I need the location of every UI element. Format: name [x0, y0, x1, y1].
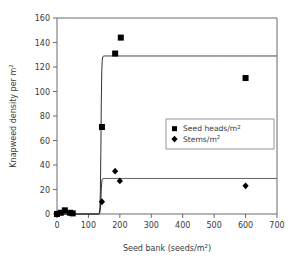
legend-label-stems: Stems/m2: [183, 134, 220, 144]
x-axis-title: Seed bank (seeds/m2): [123, 243, 211, 253]
legend-square-marker-icon: [172, 126, 177, 131]
y-tick-label: 140: [35, 39, 50, 48]
data-point-seed-heads: [62, 207, 68, 213]
data-point-seed-heads: [70, 210, 76, 216]
y-tick-label: 160: [35, 14, 50, 23]
chart-canvas: 020406080100120140160 010020030040050060…: [0, 0, 301, 264]
x-tick-label: 0: [54, 221, 59, 230]
data-point-seed-heads: [243, 75, 249, 81]
y-tick-label: 40: [40, 161, 50, 170]
y-tick-label: 20: [40, 186, 50, 195]
y-tick-label: 120: [35, 63, 50, 72]
x-tick-label: 600: [238, 221, 253, 230]
x-tick-label: 400: [175, 221, 190, 230]
y-tick-label: 60: [40, 137, 50, 146]
x-tick-label: 500: [207, 221, 222, 230]
y-axis-title: Knapweed density per m2: [8, 64, 18, 167]
legend-label-seed-heads: Seed heads/m2: [183, 124, 241, 134]
data-point-seed-heads: [99, 124, 105, 130]
x-tick-label: 700: [269, 221, 284, 230]
knapweed-density-chart: 020406080100120140160 010020030040050060…: [0, 0, 301, 264]
data-point-seed-heads: [118, 35, 124, 41]
y-tick-label: 80: [40, 112, 50, 121]
y-tick-label: 100: [35, 88, 50, 97]
chart-legend: Seed heads/m2 Stems/m2: [166, 119, 274, 149]
x-tick-label: 300: [144, 221, 159, 230]
x-tick-label: 100: [81, 221, 96, 230]
y-tick-label: 0: [45, 210, 50, 219]
x-tick-label: 200: [112, 221, 127, 230]
data-point-seed-heads: [112, 51, 118, 57]
